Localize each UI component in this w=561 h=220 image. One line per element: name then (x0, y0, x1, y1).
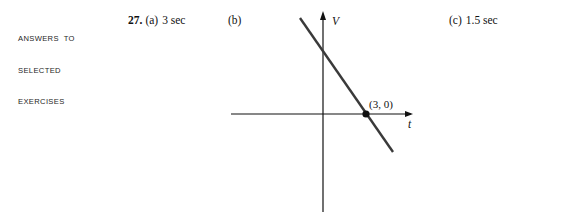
running-head-line-3: EXERCISES (18, 97, 75, 108)
plot-line (300, 18, 393, 152)
v-axis-label: V (332, 15, 341, 27)
running-head: ANSWERS TO SELECTED EXERCISES (18, 13, 75, 129)
answers-page: ANSWERS TO SELECTED EXERCISES 27.(a)3 se… (0, 0, 561, 220)
t-axis-arrow-icon (405, 111, 413, 117)
answer-entry-27a: 27.(a)3 sec (128, 14, 185, 26)
t-axis-label: t (408, 118, 412, 130)
t-axis (231, 111, 413, 117)
intercept-point-label: (3, 0) (369, 98, 393, 111)
answer-value-a: 3 sec (162, 14, 185, 26)
answer-number: 27. (128, 14, 142, 26)
figure-graph-27b: V t (3, 0) (225, 5, 425, 217)
intercept-point-marker (362, 110, 369, 117)
answer-part-label-a: (a) (145, 14, 158, 26)
running-head-line-1: ANSWERS TO (18, 34, 75, 45)
answer-part-label-c: (c) (449, 14, 462, 26)
running-head-line-2: SELECTED (18, 66, 75, 77)
v-axis-arrow-icon (320, 11, 326, 20)
answer-value-c: 1.5 sec (466, 14, 498, 26)
v-axis (320, 11, 326, 212)
answer-entry-27c: (c)1.5 sec (449, 14, 498, 26)
